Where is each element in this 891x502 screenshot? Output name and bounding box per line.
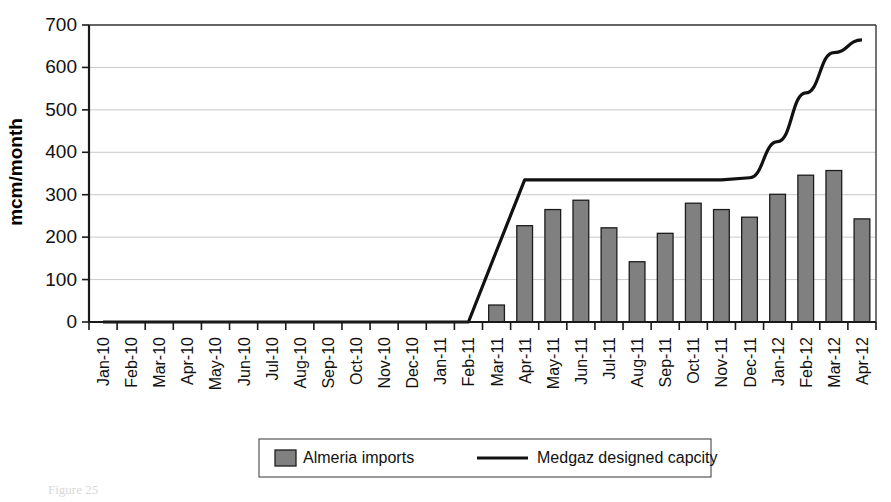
imports-capacity-chart: 0100200300400500600700 Jan-10Feb-10Mar-1… [0, 0, 891, 502]
x-tick-label: Oct-11 [685, 337, 702, 384]
y-tick-label: 100 [45, 269, 77, 290]
x-tick-label: Mar-11 [489, 337, 506, 387]
bar [714, 210, 730, 322]
x-tick-label: Jul-11 [601, 337, 618, 379]
y-tick-label: 500 [45, 99, 77, 120]
x-tick-label: May-11 [545, 337, 562, 389]
bar [573, 200, 589, 322]
x-tick-label: Nov-11 [713, 337, 730, 387]
figure-caption: Figure 25 [48, 482, 98, 497]
bar [854, 219, 870, 322]
y-tick-label: 600 [45, 56, 77, 77]
x-tick-label: Jun-10 [236, 337, 253, 386]
x-tick-label: Feb-10 [123, 337, 140, 388]
bar [601, 228, 617, 322]
x-tick-label: Mar-10 [151, 337, 168, 388]
bar [798, 175, 814, 322]
x-tick-label: Feb-12 [798, 337, 815, 388]
bar [770, 194, 786, 322]
y-tick-label: 300 [45, 184, 77, 205]
x-tick-label: Apr-12 [854, 337, 871, 385]
x-tick-label: Jun-11 [573, 337, 590, 385]
x-tick-label: Feb-11 [460, 337, 477, 387]
x-tick-label: Jan-10 [95, 337, 112, 386]
legend-label-medgaz-capacity: Medgaz designed capcity [537, 449, 718, 466]
bar [545, 210, 561, 322]
x-tick-label: Aug-10 [292, 337, 309, 389]
legend-swatch-bar [275, 450, 296, 466]
x-tick-label: May-10 [207, 337, 224, 390]
y-tick-label: 400 [45, 141, 77, 162]
bar [517, 226, 533, 322]
x-tick-label: Sep-11 [657, 337, 674, 388]
legend-label-almeria-imports: Almeria imports [303, 449, 414, 466]
x-tick-label: Aug-11 [629, 337, 646, 388]
chart-container: 0100200300400500600700 Jan-10Feb-10Mar-1… [0, 0, 891, 502]
y-tick-label: 700 [45, 14, 77, 35]
x-tick-label: Oct-10 [348, 337, 365, 385]
y-tick-label: 200 [45, 226, 77, 247]
bar [826, 171, 842, 322]
x-tick-label: Apr-11 [517, 337, 534, 384]
x-tick-label: Jul-10 [264, 337, 281, 381]
chart-legend: Almeria imports Medgaz designed capcity [259, 439, 718, 477]
x-tick-label: Dec-10 [404, 337, 421, 389]
x-tick-label: Apr-10 [179, 337, 196, 385]
x-tick-label: Nov-10 [376, 337, 393, 389]
bar [685, 203, 701, 322]
x-tick-label: Dec-11 [742, 337, 759, 387]
bar [657, 233, 673, 322]
bar [742, 217, 758, 322]
bar [489, 305, 505, 322]
y-tick-label: 0 [66, 311, 77, 332]
y-axis-title: mcm/month [5, 118, 26, 226]
x-tick-label: Jan-11 [432, 337, 449, 385]
x-tick-label: Sep-10 [320, 337, 337, 389]
bar [629, 262, 645, 322]
x-tick-label: Mar-12 [826, 337, 843, 388]
x-tick-label: Jan-12 [770, 337, 787, 386]
